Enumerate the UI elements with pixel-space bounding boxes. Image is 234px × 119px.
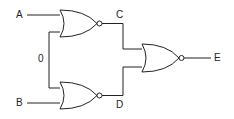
nor-gate-3-bubble	[179, 56, 184, 61]
label-e: E	[214, 53, 221, 63]
label-b: B	[16, 98, 23, 108]
nor-gate-2	[60, 82, 97, 109]
label-d: D	[116, 100, 123, 110]
nor-gate-2-bubble	[97, 93, 102, 98]
nor-gate-1-bubble	[97, 21, 102, 26]
wire-zero	[49, 32, 60, 88]
wire-c	[102, 24, 142, 50]
label-a: A	[16, 10, 23, 20]
label-zero: 0	[38, 54, 44, 64]
nor-gate-1	[60, 10, 97, 37]
label-c: C	[116, 10, 123, 20]
wire-d	[102, 67, 142, 96]
nor-gate-3	[142, 44, 179, 72]
